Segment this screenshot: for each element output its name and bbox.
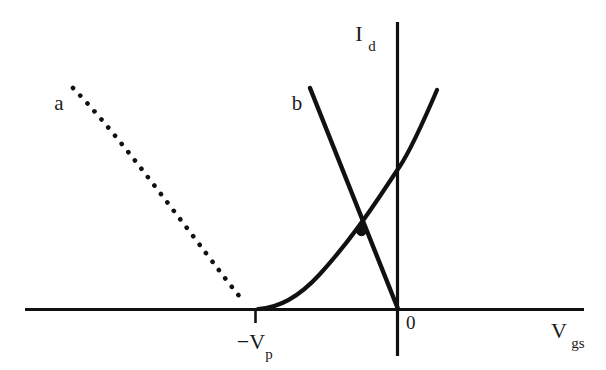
x-axis-label-main: V <box>551 318 567 343</box>
curve-a-dotted-path <box>73 88 245 303</box>
transfer-curve-path <box>258 90 437 309</box>
transfer-characteristic-plot: I d V gs 0 −V p a b <box>0 0 606 370</box>
x-axis-label-sub: gs <box>571 335 585 351</box>
y-axis-label-main: I <box>355 21 362 46</box>
origin-label: 0 <box>406 312 416 333</box>
figure-root: I d V gs 0 −V p a b <box>0 0 606 370</box>
pinchoff-label-sub: p <box>265 346 273 362</box>
load-line-b <box>310 88 398 309</box>
curve-b-label: b <box>292 91 303 115</box>
pinchoff-label-main: −V <box>237 329 265 354</box>
q-point-marker <box>356 225 366 235</box>
y-axis-label-sub: d <box>368 38 376 54</box>
curve-a-label: a <box>54 91 64 115</box>
